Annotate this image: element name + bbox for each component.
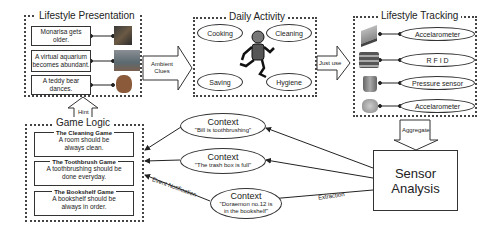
presentation-item: A teddy bear dances. xyxy=(31,75,91,95)
lifestyle-tracking-title: Lifestyle Tracking xyxy=(378,10,461,21)
trash-box-icon xyxy=(363,76,377,92)
presentation-item: Monarisa gets older. xyxy=(31,26,91,46)
context-trash-box: Context "The trash box is full" xyxy=(180,148,266,174)
aggregate-label: Aggregate xyxy=(402,127,430,133)
context-bookshelf: Context "Doraemon no.12 is in the booksh… xyxy=(210,188,282,219)
game-logic-title: Game Logic xyxy=(53,117,113,128)
sensor-accelarometer: Accelarometer xyxy=(400,27,475,41)
ambient-clues-label: Ambient Clues xyxy=(147,61,177,75)
context-toothbrushing: Context "Bill is toothbrushing" xyxy=(180,113,266,139)
sensor-analysis-box: Sensor Analysis xyxy=(373,150,458,211)
game-toothbrush: The Toothbrush Game A toothbrushing shou… xyxy=(34,161,134,186)
teddy-bear-icon xyxy=(116,75,132,93)
just-use-label: Just use xyxy=(319,60,341,66)
hint-label: Hint xyxy=(78,109,89,115)
sensor-rfid: R F I D xyxy=(400,53,475,67)
presentation-item: A virtual aquarium becomes abundant. xyxy=(31,50,91,72)
game-bookshelf: The Bookshelf Game A bookshelf should be… xyxy=(34,191,134,216)
books-icon xyxy=(359,52,379,68)
painting-icon xyxy=(114,26,132,45)
sensor-pressure: Pressure sensor xyxy=(400,76,475,90)
daily-activity-title: Daily Activity xyxy=(226,11,288,22)
toothbrush-icon xyxy=(362,99,378,113)
running-person-icon xyxy=(236,30,278,80)
aquarium-icon xyxy=(114,50,140,71)
sensor-accelarometer: Accelarometer xyxy=(400,99,475,113)
lifestyle-presentation-title: Lifestyle Presentation xyxy=(36,10,138,21)
game-cleaning: The Cleaning Game A room should be alway… xyxy=(34,132,134,157)
